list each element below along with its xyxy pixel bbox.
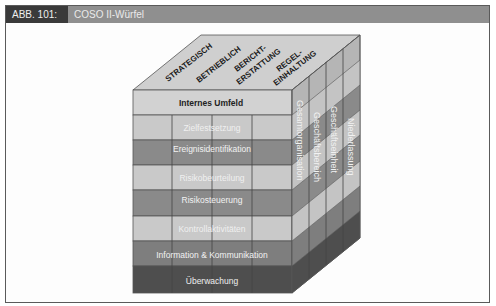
label-information-kommunikation: Information & Kommunikation [156,250,268,260]
side-label-geschaeftsbereich: Geschäftsbereich [312,112,322,182]
coso-cube: STRATEGISCH BETRIEBLICH BERICHT- ERSTATT… [0,0,496,306]
side-label-niederlassung: Niederlassung [346,118,356,176]
side-label-geschaeftseinheit: Geschäftseinheit [329,106,339,174]
label-risikosteuerung: Risikosteuerung [182,195,243,205]
label-ereignisidentifikation: Ereignisidentifikation [173,144,251,154]
side-label-gesamtorganisation: Gesamtorganisation [295,100,305,181]
label-ueberwachung: Überwachung [186,276,239,286]
cube-front-face [133,90,292,293]
label-kontrollaktivitaeten: Kontrollaktivitäten [178,224,245,234]
label-risikobeurteilung: Risikobeurteilung [179,173,244,183]
label-internes-umfeld: Internes Umfeld [179,98,243,108]
label-zielfestsetzung: Zielfestsetzung [183,123,240,133]
